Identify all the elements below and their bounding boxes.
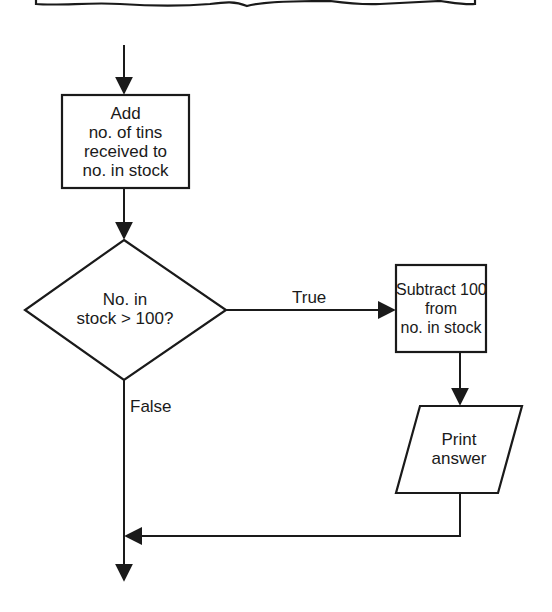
io-parallelogram-print-label: Print answer	[409, 430, 509, 468]
process-box-subtract-label: Subtract 100 from no. in stock	[396, 280, 486, 337]
label-line: no. in stock	[396, 318, 486, 337]
edge-label-false: False	[130, 397, 172, 416]
label-line: no. in stock	[62, 161, 189, 180]
process-box-add-label: Add no. of tins received to no. in stock	[62, 104, 189, 180]
decision-diamond-label: No. in stock > 100?	[44, 290, 206, 328]
flow-arrow-print-return	[126, 493, 460, 536]
label-line: Add	[62, 104, 189, 123]
previous-step-box-edge	[36, 0, 475, 6]
edge-label-true: True	[292, 288, 326, 307]
label-line: stock > 100?	[44, 309, 206, 328]
label-line: Subtract 100	[396, 280, 486, 299]
label-line: Print	[409, 430, 509, 449]
label-line: no. of tins	[62, 123, 189, 142]
label-line: from	[396, 299, 486, 318]
label-line: No. in	[44, 290, 206, 309]
label-line: answer	[409, 449, 509, 468]
label-line: received to	[62, 142, 189, 161]
